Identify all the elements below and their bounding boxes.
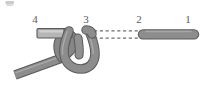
rope-tail-lower-left <box>15 56 62 75</box>
dashed-guide-lines <box>94 31 141 38</box>
rope-bight-tip <box>86 30 92 34</box>
label-2: 2 <box>132 14 146 25</box>
knot-illustration <box>0 0 207 85</box>
label-3: 3 <box>79 14 93 25</box>
label-1: 1 <box>181 14 195 25</box>
right-rope-segment <box>143 32 194 35</box>
knot-diagram-figure: 4 3 2 1 <box>0 0 207 85</box>
rope-short-stub <box>78 38 79 55</box>
partial-glyph-artifact-icon <box>6 1 15 6</box>
label-4: 4 <box>28 14 42 25</box>
